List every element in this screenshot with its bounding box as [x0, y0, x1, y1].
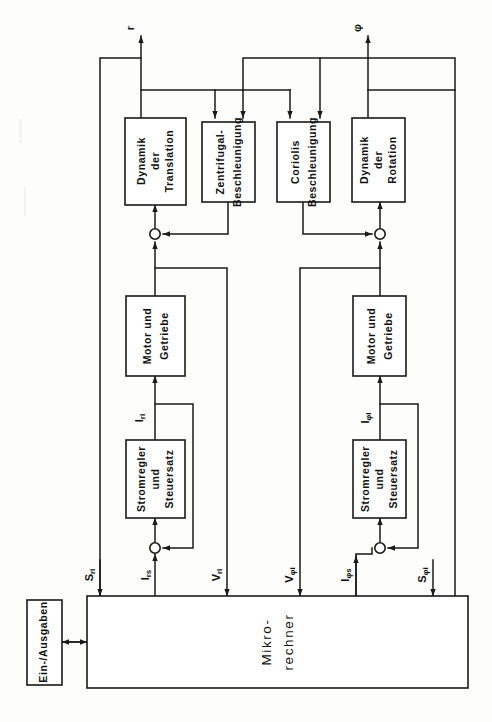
- label-stromregler-rechts-l2: und: [373, 468, 385, 489]
- signal-label-v-phi-i: Vφi: [283, 567, 297, 582]
- label-motor-links-l2: Getriebe: [158, 312, 170, 359]
- label-coriolis-l1: Coriolis: [289, 140, 301, 184]
- signal-label-s-phi-i: Sφi: [416, 567, 430, 582]
- diagram-svg: Dynamik der Translation Zentrifugal- Bes…: [0, 0, 492, 722]
- sum-node-strom-links[interactable]: [150, 543, 160, 553]
- signal-label-v-ri: Vri: [210, 569, 224, 582]
- label-stromregler-rechts-l3: Steuersatz: [387, 449, 399, 508]
- label-dynamik-translation-l1: Dynamik: [135, 137, 147, 185]
- label-dynamik-rotation-l1: Dynamik: [358, 136, 370, 184]
- signal-label-phi: φ: [351, 24, 363, 32]
- signal-label-i-phi-i: Iφi: [359, 412, 373, 423]
- label-stromregler-rechts-l1: Stromregler: [359, 446, 371, 512]
- signal-label-i-ri: Iri: [133, 414, 147, 422]
- signal-label-s-ri: Sri: [83, 569, 97, 582]
- label-mikrorechner-l2: rechner: [281, 614, 296, 671]
- signal-label-i-rs: Irs: [139, 569, 153, 580]
- label-ein-ausgaben: Ein-/Ausgaben: [37, 601, 49, 682]
- label-stromregler-links-l1: Stromregler: [135, 446, 147, 512]
- label-stromregler-links-l3: Steuersatz: [163, 449, 175, 508]
- sum-node-rotation[interactable]: [375, 229, 385, 239]
- label-mikrorechner-l1: Mikro-: [259, 618, 274, 665]
- label-dynamik-translation-l3: Translation: [163, 130, 175, 193]
- label-motor-rechts-l1: Motor und: [365, 308, 377, 365]
- label-motor-links-l1: Motor und: [141, 308, 153, 365]
- label-dynamik-rotation-l2: der: [372, 151, 384, 169]
- block-mikrorechner[interactable]: [87, 596, 468, 688]
- label-stromregler-links-l2: und: [149, 468, 161, 489]
- block-motor-getriebe-links[interactable]: [126, 296, 185, 376]
- blocks-layer: [27, 118, 468, 688]
- block-diagram-canvas: Dynamik der Translation Zentrifugal- Bes…: [0, 0, 492, 722]
- sum-node-translation[interactable]: [150, 229, 160, 239]
- scan-artifacts: [19, 119, 26, 216]
- label-motor-rechts-l2: Getriebe: [382, 312, 394, 359]
- label-dynamik-rotation-l3: Rotation: [386, 136, 398, 183]
- label-coriolis-l2: Beschleunigung: [306, 117, 318, 207]
- label-zentrifugal-l1: Zentrifugal-: [214, 130, 226, 195]
- label-dynamik-translation-l2: der: [149, 152, 161, 170]
- signal-label-i-phi-s: Iφs: [339, 568, 353, 582]
- block-zentrifugal-beschleunigung[interactable]: [202, 122, 255, 202]
- sum-node-strom-rechts[interactable]: [375, 543, 385, 553]
- signal-label-r: r: [124, 25, 136, 30]
- label-zentrifugal-l2: Beschleunigung: [231, 117, 243, 207]
- block-motor-getriebe-rechts[interactable]: [353, 296, 406, 376]
- block-coriolis-beschleunigung[interactable]: [277, 122, 330, 202]
